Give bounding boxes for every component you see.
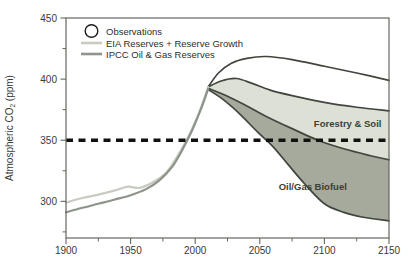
y-tick-label: 400 — [40, 74, 57, 85]
x-tick-label: 2150 — [378, 245, 401, 256]
legend-label: EIA Reserves + Reserve Growth — [106, 38, 243, 49]
y-tick-label: 350 — [40, 135, 57, 146]
x-tick-label: 2050 — [249, 245, 272, 256]
x-tick-label: 2100 — [313, 245, 336, 256]
co2-chart: 190019502000205021002150300350400450Atmo… — [0, 0, 412, 270]
y-tick-label: 300 — [40, 196, 57, 207]
y-axis-title: Atmospheric CO2 (ppm) — [4, 75, 16, 181]
y-tick-label: 450 — [40, 13, 57, 24]
eia-historical-curve — [66, 87, 208, 203]
band-annotation: Forestry & Soil — [314, 118, 382, 129]
observations-circle-marker — [85, 25, 98, 38]
x-tick-label: 1900 — [55, 245, 78, 256]
legend-label: IPCC Oil & Gas Reserves — [106, 49, 215, 60]
x-tick-label: 2000 — [184, 245, 207, 256]
ipcc-historical-curve — [66, 89, 208, 212]
x-tick-label: 1950 — [119, 245, 142, 256]
co2-projection-figure: 190019502000205021002150300350400450Atmo… — [0, 0, 412, 270]
legend-label: Observations — [106, 26, 162, 37]
band-annotation: Oil/Gas Biofuel — [279, 181, 347, 192]
